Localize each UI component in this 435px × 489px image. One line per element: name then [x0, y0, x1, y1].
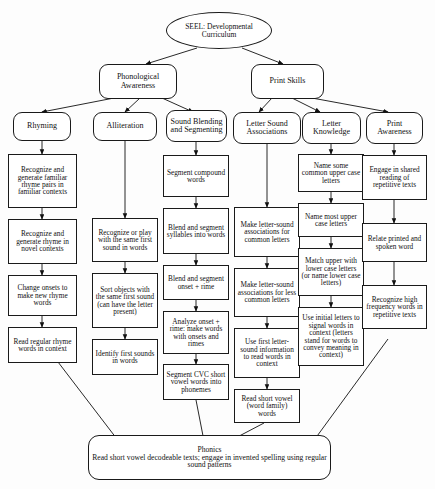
step-letter-knowledge-1: Name some common upper case letters	[298, 154, 364, 192]
category-label: Print Awareness	[369, 120, 420, 136]
step-label: Sort objects with the same first sound (…	[95, 286, 155, 316]
step-label: Use first letter-sound information to re…	[237, 338, 297, 368]
outcome-phonics: Phonics Read short vowel decodeable text…	[88, 435, 331, 480]
step-label: Relate printed and spoken word	[365, 235, 424, 250]
step-letter-knowledge-4: Use initial letters to signal words in c…	[298, 307, 364, 366]
step-letter-sound-3: Use first letter-sound information to re…	[234, 328, 300, 378]
step-label: Recognize high frequency words in repeti…	[365, 296, 424, 318]
step-letter-sound-2: Make letter-sound associations for less …	[234, 268, 300, 317]
step-label: Blend and segment onset + rime	[166, 275, 226, 290]
step-label: Make letter-sound associations for less …	[237, 281, 297, 303]
strand-print-skills: Print Skills	[251, 64, 324, 99]
category-letter-knowledge: Letter Knowledge	[302, 112, 361, 144]
seel-curriculum-flowchart: SEEL: Developmental Curriculum Phonologi…	[0, 0, 435, 489]
category-rhyming: Rhyming	[13, 112, 71, 141]
step-rhyming-1: Recognize and generate familiar rhyme pa…	[8, 154, 77, 208]
step-label: Segment compound words	[166, 169, 226, 184]
step-label: Blend and segment syllables into words	[166, 224, 226, 239]
step-label: Make letter-sound associations for commo…	[237, 221, 297, 243]
step-letter-knowledge-3: Match upper with lower case letters (or …	[298, 248, 364, 296]
category-sound-blending-and-segmenting: Sound Blending and Segmenting	[166, 110, 227, 142]
step-print-awareness-1: Engage in shared reading of repetitive t…	[362, 155, 427, 200]
step-rhyming-4: Read regular rhyme words in context	[8, 327, 77, 363]
step-label: Read regular rhyme words in context	[11, 338, 74, 353]
category-label: Letter Sound Associations	[236, 120, 298, 136]
step-label: Segment CVC short vowel words into phone…	[166, 371, 226, 393]
root-node-label: SEEL: Developmental Curriculum	[169, 23, 269, 38]
step-sound-blending-5: Segment CVC short vowel words into phone…	[163, 364, 229, 400]
step-letter-knowledge-2: Name most upper case letters	[298, 203, 364, 237]
step-sound-blending-1: Segment compound words	[163, 155, 229, 197]
outcome-body: Read short vowel decodeable texts; engag…	[91, 454, 328, 469]
step-label: Recognize and generate familiar rhyme pa…	[11, 166, 74, 196]
category-label: Letter Knowledge	[305, 120, 358, 136]
category-label: Rhyming	[16, 122, 68, 130]
step-alliteration-1: Recognize or play with the same first so…	[92, 218, 158, 262]
step-sound-blending-4: Analyze onset + rime: make words with on…	[163, 311, 229, 354]
step-label: Analyze onset + rime: make words with on…	[166, 318, 226, 348]
strand-label: Print Skills	[254, 77, 321, 85]
step-label: Name some common upper case letters	[301, 162, 361, 184]
category-label: Alliteration	[96, 122, 154, 130]
step-alliteration-3: Identify first sounds in words	[92, 339, 158, 375]
step-rhyming-3: Change onsets to make new rhyme words	[8, 275, 77, 316]
step-label: Engage in shared reading of repetitive t…	[365, 166, 424, 188]
strand-label: Phonological Awareness	[102, 73, 174, 89]
step-label: Identify first sounds in words	[95, 350, 155, 365]
step-alliteration-2: Sort objects with the same first sound (…	[92, 273, 158, 328]
step-rhyming-2: Recognize and generate rhyme in novel co…	[8, 219, 77, 264]
step-label: Name most upper case letters	[301, 213, 361, 228]
step-label: Recognize or play with the same first so…	[95, 229, 155, 251]
step-letter-sound-4: Read short vowel (word family) words	[234, 389, 300, 423]
step-print-awareness-3: Recognize high frequency words in repeti…	[362, 285, 427, 329]
step-label: Change onsets to make new rhyme words	[11, 284, 74, 306]
category-print-awareness: Print Awareness	[366, 112, 423, 144]
step-sound-blending-3: Blend and segment onset + rime	[163, 265, 229, 300]
category-label: Sound Blending and Segmenting	[169, 118, 224, 134]
step-label: Read short vowel (word family) words	[237, 395, 297, 417]
step-label: Use initial letters to signal words in c…	[301, 314, 361, 359]
strand-phonological-awareness: Phonological Awareness	[99, 64, 177, 99]
step-label: Recognize and generate rhyme in novel co…	[11, 230, 74, 252]
step-sound-blending-2: Blend and segment syllables into words	[163, 208, 229, 254]
outcome-text-group: Phonics Read short vowel decodeable text…	[91, 446, 328, 469]
root-node-seel: SEEL: Developmental Curriculum	[166, 12, 272, 49]
step-label: Match upper with lower case letters (or …	[301, 257, 361, 287]
step-letter-sound-1: Make letter-sound associations for commo…	[234, 207, 300, 257]
category-letter-sound-associations: Letter Sound Associations	[233, 112, 301, 144]
step-print-awareness-2: Relate printed and spoken word	[362, 223, 427, 262]
category-alliteration: Alliteration	[93, 112, 157, 141]
